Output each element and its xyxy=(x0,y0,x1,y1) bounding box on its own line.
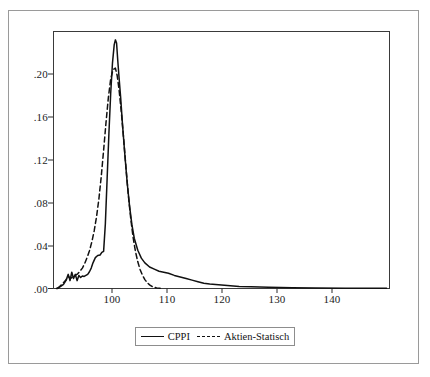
legend-entry-cppi: CPPI xyxy=(141,331,190,342)
legend-dashed-line-icon xyxy=(197,336,220,337)
chart-legend: CPPI Aktien-Statisch xyxy=(135,327,295,346)
legend-solid-line-icon xyxy=(141,336,164,337)
legend-entry-aktien-statisch: Aktien-Statisch xyxy=(197,331,289,342)
legend-label-aktien-statisch: Aktien-Statisch xyxy=(224,331,289,342)
plot-canvas xyxy=(0,0,430,377)
density-chart: .20 .16 .12 .08 .04 .00 100 110 120 130 … xyxy=(0,0,430,377)
series-line-cppi xyxy=(56,40,386,289)
x-axis-ticks xyxy=(112,289,332,294)
legend-label-cppi: CPPI xyxy=(168,331,190,342)
y-axis-ticks xyxy=(48,74,53,289)
